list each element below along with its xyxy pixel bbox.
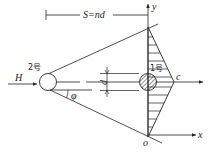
downstream-cylinder-label: 1号 xyxy=(150,64,163,73)
downstream-cylinder xyxy=(140,74,157,91)
origin-label: o xyxy=(143,137,148,148)
x-axis-label: x xyxy=(197,129,203,140)
upstream-cylinder xyxy=(40,74,57,91)
y-axis-label: y xyxy=(151,1,157,12)
wake-upper-boundary xyxy=(48,24,158,74)
point-c-label: c xyxy=(176,71,181,82)
flow-label: H xyxy=(14,72,23,83)
spacing-label: S=nd xyxy=(83,9,106,20)
upstream-cylinder-label: 2号 xyxy=(28,63,41,72)
angle-label: φ xyxy=(71,90,77,101)
angle-arc xyxy=(67,90,69,98)
wake-interference-diagram: S=nd y x 1号 c o 2号 H φ xyxy=(0,0,209,153)
